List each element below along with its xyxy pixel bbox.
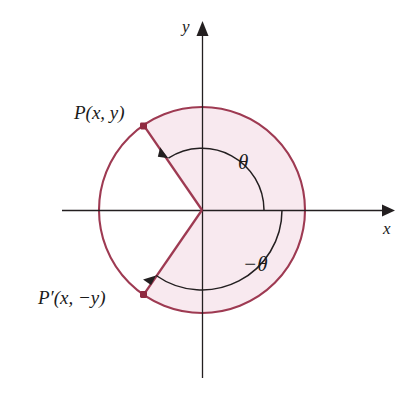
axis-label-y: y	[182, 18, 190, 35]
y-axis-arrowhead-icon	[197, 21, 209, 36]
axis-label-x: x	[383, 220, 391, 237]
point-label-p: P(x, y)	[74, 103, 125, 122]
point-marker-p	[140, 123, 147, 130]
point-marker-p-prime	[140, 291, 147, 298]
diagram-canvas	[0, 0, 419, 413]
angle-label-negative-theta: −θ	[243, 254, 268, 275]
trig-diagram-figure: P(x, y) P′(x, −y) θ −θ x y	[0, 0, 419, 413]
point-label-p-prime: P′(x, −y)	[38, 288, 106, 307]
angle-label-theta: θ	[238, 152, 248, 173]
x-axis-arrowhead-icon	[382, 205, 395, 217]
